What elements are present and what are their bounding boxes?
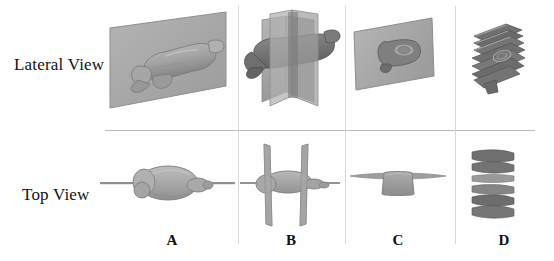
row-label-top-view: Top View [22,185,90,205]
vertical-divider-a-b [238,6,239,244]
panel-b-top-view [240,140,340,232]
panel-a-lateral-view [104,10,234,122]
brain-top-mesh-a [133,166,213,200]
horizontal-divider [105,130,535,131]
slice-ring-inner-c [398,47,410,54]
slab-edge-b [288,12,298,98]
column-label-a: A [152,232,192,249]
row-label-lateral-view: Lateral View [14,55,104,75]
panel-c-lateral-view [348,14,446,108]
vertical-divider-c-d [455,6,456,244]
vertical-divider-b-c [345,6,346,244]
brain-top-mesh-b [240,171,340,193]
slice-bars-d [472,150,514,218]
figure-canvas: Lateral View Top View A B C D [0,0,554,261]
column-label-d: D [484,232,524,249]
column-label-c: C [378,232,418,249]
column-label-b: B [271,232,311,249]
panel-a-top-view [100,152,235,214]
panel-b-lateral-view [240,6,342,126]
panel-d-top-view [468,148,518,224]
slice-stack-d [472,24,525,94]
panel-c-top-view [348,160,448,206]
panel-d-lateral-view [462,16,532,102]
